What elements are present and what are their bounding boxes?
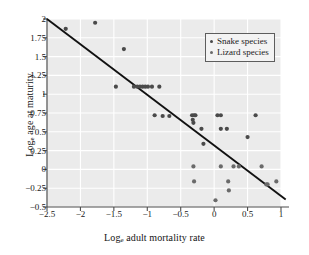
x-tick-label: −1 (142, 209, 152, 219)
data-point (237, 164, 241, 168)
legend-label: Lizard species (217, 47, 269, 58)
y-tick-label: 0.5 (35, 127, 46, 137)
data-point (191, 164, 195, 168)
legend-marker-icon (210, 51, 213, 54)
x-tick-label: −1.5 (106, 209, 122, 219)
data-point (153, 113, 157, 117)
y-axis-title-subscript: e (28, 137, 36, 140)
data-point (122, 47, 126, 51)
data-point (213, 198, 217, 202)
data-point (114, 85, 118, 89)
y-tick-label: −0.25 (25, 183, 46, 193)
data-point (201, 142, 205, 146)
data-point (192, 179, 196, 183)
data-point (260, 164, 264, 168)
legend-label: Snake species (217, 36, 267, 47)
x-axis-title-rest: adult mortality rate (124, 232, 205, 243)
y-tick-label: 1 (42, 89, 47, 99)
y-tick-label: −0.5 (30, 202, 46, 212)
data-point (150, 85, 154, 89)
x-tick-label: −2 (76, 209, 86, 219)
data-point (253, 113, 257, 117)
x-tick-label: 0 (212, 209, 217, 219)
data-point (161, 114, 165, 118)
data-point (93, 21, 97, 25)
data-point (157, 85, 161, 89)
data-point (226, 179, 230, 183)
chart-legend: Snake speciesLizard species (205, 33, 275, 62)
data-point (227, 188, 231, 192)
y-tick-label: 1.75 (30, 33, 46, 43)
scatter-plot-figure: Loge age at maturity Loge adult mortalit… (0, 0, 309, 255)
data-point (266, 182, 270, 186)
data-point (219, 164, 223, 168)
y-tick-label: 1.5 (35, 52, 46, 62)
y-tick-label: 1.25 (30, 70, 46, 80)
y-axis-title-rest: age at maturity (24, 73, 35, 137)
data-point (219, 113, 223, 117)
data-point (191, 121, 195, 125)
x-tick-label: −0.5 (173, 209, 189, 219)
y-tick-label: 0 (42, 164, 47, 174)
data-point (199, 127, 203, 131)
y-tick-label: 0.25 (30, 146, 46, 156)
data-point (64, 27, 68, 31)
x-axis-title: Loge adult mortality rate (0, 232, 309, 244)
x-tick-label: 0.5 (242, 209, 253, 219)
y-tick-label: 0.75 (30, 108, 46, 118)
legend-item: Lizard species (210, 47, 269, 58)
data-point (219, 127, 223, 131)
data-point (167, 114, 171, 118)
x-tick-label: 1 (279, 209, 284, 219)
y-tick-label: 2 (42, 14, 47, 24)
data-point (146, 85, 150, 89)
data-point (231, 164, 235, 168)
legend-item: Snake species (210, 36, 269, 47)
legend-marker-icon (210, 40, 213, 43)
data-point (274, 179, 278, 183)
data-point (193, 113, 197, 117)
data-point (245, 135, 249, 139)
data-point (225, 127, 229, 131)
x-axis-title-main: Log (104, 232, 120, 243)
